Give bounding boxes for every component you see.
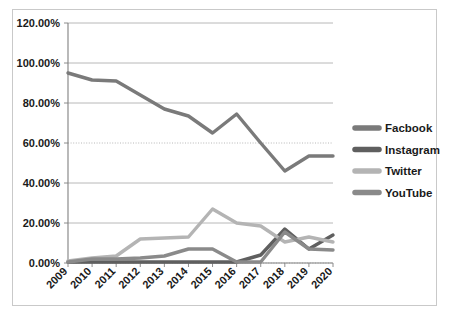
y-axis-label-80: 80.00% [23, 97, 61, 109]
y-axis-label-60: 60.00% [23, 137, 61, 149]
gridlines [68, 23, 333, 263]
legend-label-twitter[interactable]: Twitter [385, 165, 422, 177]
x-axis-label-2012: 2012 [116, 265, 142, 291]
y-axis-label-40: 40.00% [23, 177, 61, 189]
data-series-lines [68, 73, 333, 262]
chart-container: 0.00%20.00%40.00%60.00%80.00%100.00%120.… [0, 0, 450, 320]
y-axis-tick-labels: 0.00%20.00%40.00%60.00%80.00%100.00%120.… [17, 17, 68, 269]
y-axis-label-120: 120.00% [17, 17, 61, 29]
line-chart-plot: 0.00%20.00%40.00%60.00%80.00%100.00%120.… [0, 0, 450, 320]
x-axis-label-2011: 2011 [92, 265, 117, 290]
series-line-facbook [68, 73, 333, 171]
x-axis-label-2014: 2014 [164, 264, 190, 290]
chart-legend: FacbookInstagramTwitterYouTube [355, 122, 440, 199]
legend-label-youtube[interactable]: YouTube [385, 187, 432, 199]
legend-label-instagram[interactable]: Instagram [385, 144, 440, 156]
x-axis-label-2019: 2019 [285, 265, 311, 291]
x-axis-label-2016: 2016 [212, 265, 238, 291]
series-line-youtube [68, 232, 333, 262]
x-axis-label-2018: 2018 [260, 265, 286, 291]
x-axis-label-2013: 2013 [140, 265, 166, 291]
x-axis-label-2017: 2017 [236, 265, 262, 291]
x-axis-label-2010: 2010 [68, 265, 94, 291]
x-axis-tick-labels: 2009201020112012201320142015201620172018… [44, 264, 335, 290]
y-axis-label-100: 100.00% [17, 57, 61, 69]
legend-label-facbook[interactable]: Facbook [385, 122, 433, 134]
y-axis-label-0: 0.00% [29, 257, 60, 269]
x-axis-label-2015: 2015 [188, 265, 214, 291]
x-axis-label-2020: 2020 [309, 265, 335, 291]
y-axis-label-20: 20.00% [23, 217, 61, 229]
